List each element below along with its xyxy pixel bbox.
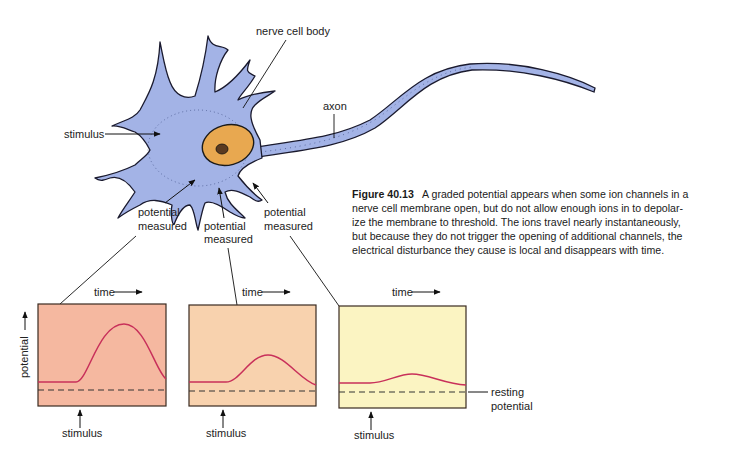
connector-2	[228, 248, 237, 305]
graph-panel-2: time stimulus	[189, 286, 316, 439]
graph-panel-1: time stimulus	[38, 286, 166, 439]
measure-label-3: potential measured	[253, 183, 313, 232]
caption-line-5: electrical disturbance they cause is loc…	[352, 244, 664, 256]
svg-text:measured: measured	[264, 220, 313, 232]
axon	[250, 63, 595, 158]
svg-text:potential: potential	[138, 206, 180, 218]
caption-line-2: nerve cell membrane open, but do not all…	[352, 202, 683, 214]
caption-line-3: ize the membrane to threshold. The ions …	[352, 216, 681, 228]
svg-text:measured: measured	[204, 233, 253, 245]
svg-text:stimulus: stimulus	[64, 128, 105, 140]
svg-text:measured: measured	[138, 220, 187, 232]
svg-text:stimulus: stimulus	[206, 427, 247, 439]
graph-panel-3: time stimulus resting potential	[339, 286, 533, 441]
svg-text:potential: potential	[264, 206, 306, 218]
svg-text:nerve cell body: nerve cell body	[256, 25, 330, 37]
connector-3	[290, 236, 339, 306]
caption-line-1: A graded potential appears when some ion…	[422, 188, 688, 200]
svg-text:time: time	[392, 286, 413, 298]
svg-text:potential: potential	[204, 220, 246, 232]
y-axis-label: potential	[18, 312, 30, 378]
svg-text:potential: potential	[491, 400, 533, 412]
svg-text:potential: potential	[18, 336, 30, 378]
svg-text:stimulus: stimulus	[354, 429, 395, 441]
figure-caption: Figure 40.13 A graded potential appears …	[352, 187, 732, 257]
svg-text:time: time	[242, 286, 263, 298]
figure-number: Figure 40.13	[352, 188, 414, 200]
svg-text:time: time	[94, 286, 115, 298]
svg-text:axon: axon	[323, 100, 347, 112]
svg-text:stimulus: stimulus	[62, 427, 103, 439]
caption-line-4: but because they do not trigger the open…	[352, 230, 682, 242]
svg-text:resting: resting	[491, 386, 524, 398]
